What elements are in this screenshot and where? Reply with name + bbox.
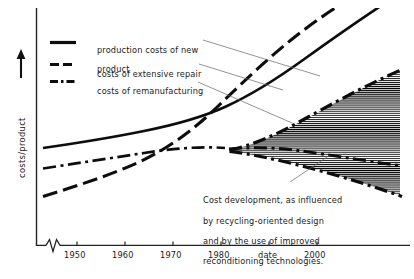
cost-development-band — [230, 71, 401, 197]
up-arrow-icon — [17, 49, 26, 78]
x-tick-1960: 1960 — [112, 250, 134, 260]
x-tick-1980: 1980 — [208, 250, 230, 260]
y-axis-label: costs/product — [17, 117, 27, 178]
cost-development-chart: costs/product production costs of new pr… — [0, 0, 414, 279]
legend-item-remanufacturing[interactable]: costs of remanufacturing — [86, 77, 203, 106]
leader-extensive-repair — [199, 64, 283, 90]
x-axis-label: date — [258, 250, 277, 260]
x-tick-1970: 1970 — [160, 250, 182, 260]
band-fill — [230, 71, 401, 197]
x-tick-1950: 1950 — [64, 250, 86, 260]
legend-label-line1: costs of remanufacturing — [97, 86, 203, 96]
x-tick-2000: 2000 — [304, 250, 326, 260]
annotation-line-2: by recycling-oriented design — [203, 216, 324, 226]
legend-keys — [50, 43, 76, 82]
annotation-line-3: and by the use of improved — [203, 236, 320, 246]
annotation-line-1: Cost development, as influenced — [203, 195, 342, 205]
axis-break-zigzag — [46, 240, 60, 252]
legend-label-line1: production costs of new — [97, 45, 198, 55]
cost-development-annotation: Cost development, as influenced by recyc… — [192, 185, 342, 277]
